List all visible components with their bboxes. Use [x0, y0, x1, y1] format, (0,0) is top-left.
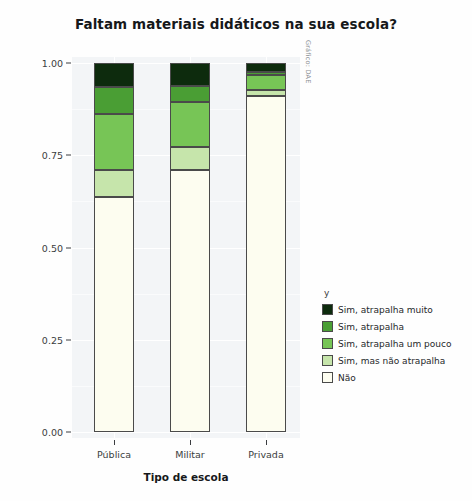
legend-items: Sim, atrapalha muitoSim, atrapalhaSim, a… [322, 301, 470, 386]
legend-swatch-icon [322, 321, 333, 332]
x-tick-mark [114, 440, 115, 445]
y-tick-label: 1.00 [11, 58, 63, 69]
bar-segment[interactable] [246, 72, 286, 75]
bar-segment[interactable] [94, 114, 134, 170]
bar-segment[interactable] [170, 63, 210, 86]
x-tick-mark [266, 440, 267, 445]
bar-militar[interactable] [170, 57, 210, 438]
y-tick-mark [66, 63, 71, 64]
bar-segment[interactable] [94, 197, 134, 432]
legend-item[interactable]: Sim, atrapalha [322, 318, 470, 335]
y-tick-label: 0.75 [11, 150, 63, 161]
x-tick-label-pública: Pública [74, 449, 154, 460]
legend: y Sim, atrapalha muitoSim, atrapalhaSim,… [322, 288, 470, 386]
x-axis-label: Tipo de escola [72, 471, 300, 483]
legend-item-label: Sim, atrapalha [338, 322, 404, 332]
y-tick-mark [66, 432, 71, 433]
page-title: Faltam materiais didáticos na sua escola… [0, 16, 472, 32]
y-tick-mark [66, 155, 71, 156]
legend-title: y [324, 288, 470, 299]
legend-swatch-icon [322, 372, 333, 383]
y-tick-label: 0.50 [11, 242, 63, 253]
bar-segment[interactable] [246, 75, 286, 90]
bar-privada[interactable] [246, 57, 286, 438]
bar-segment[interactable] [170, 86, 210, 102]
y-tick-label: 0.00 [11, 427, 63, 438]
bar-segment[interactable] [246, 63, 286, 72]
bar-segment[interactable] [94, 170, 134, 197]
legend-item-label: Não [338, 373, 356, 383]
bar-segment[interactable] [94, 87, 134, 114]
legend-item[interactable]: Sim, atrapalha muito [322, 301, 470, 318]
y-tick-mark [66, 247, 71, 248]
legend-item[interactable]: Sim, mas não atrapalha [322, 352, 470, 369]
bar-pública[interactable] [94, 57, 134, 438]
legend-item[interactable]: Sim, atrapalha um pouco [322, 335, 470, 352]
legend-swatch-icon [322, 338, 333, 349]
y-tick-label: 0.25 [11, 334, 63, 345]
plot-area [72, 57, 300, 438]
bar-segment[interactable] [246, 90, 286, 96]
legend-item[interactable]: Não [322, 369, 470, 386]
bar-segment[interactable] [170, 102, 210, 147]
chart-figure: Faltam materiais didáticos na sua escola… [0, 0, 472, 501]
y-tick-mark [66, 339, 71, 340]
bar-segment[interactable] [246, 96, 286, 432]
legend-item-label: Sim, atrapalha muito [338, 305, 433, 315]
bar-segment[interactable] [94, 63, 134, 87]
credit-note: Gráfico: DAE [300, 40, 312, 110]
bar-segment[interactable] [170, 147, 210, 170]
x-tick-mark [190, 440, 191, 445]
legend-item-label: Sim, atrapalha um pouco [338, 339, 451, 349]
legend-swatch-icon [322, 304, 333, 315]
legend-swatch-icon [322, 355, 333, 366]
legend-item-label: Sim, mas não atrapalha [338, 356, 445, 366]
x-tick-label-privada: Privada [226, 449, 306, 460]
x-tick-label-militar: Militar [150, 449, 230, 460]
bar-segment[interactable] [170, 170, 210, 432]
